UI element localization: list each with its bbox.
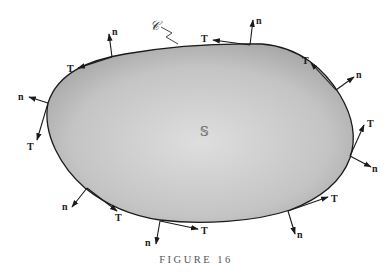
normal-vector	[250, 20, 253, 45]
vector-pair-6: n T	[350, 118, 378, 174]
region-s-label: 𝕊	[200, 125, 209, 139]
normal-vector	[29, 97, 48, 103]
svg-text:T: T	[27, 141, 34, 152]
svg-text:n: n	[18, 91, 24, 102]
vector-pair-8: n T	[201, 15, 262, 45]
svg-text:T: T	[201, 225, 208, 236]
tangent-vector	[37, 103, 48, 140]
normal-vector	[336, 77, 354, 90]
figure-caption: FIGURE 16	[0, 254, 392, 265]
svg-text:T: T	[367, 118, 374, 129]
vector-pair-4: n T	[145, 221, 208, 248]
svg-text:n: n	[256, 15, 262, 26]
svg-text:T: T	[331, 193, 338, 204]
svg-text:n: n	[297, 229, 303, 240]
svg-text:n: n	[356, 69, 362, 80]
svg-text:n: n	[62, 201, 68, 212]
svg-text:T: T	[201, 33, 208, 44]
svg-text:T: T	[302, 55, 309, 66]
svg-text:n: n	[112, 26, 118, 37]
region-diagram: 𝒞 𝕊 n T n T n T n T n T	[0, 0, 392, 275]
vector-pair-2: n T	[18, 91, 48, 152]
curve-pointer	[161, 27, 178, 44]
normal-vector	[288, 211, 295, 234]
svg-text:𝒞: 𝒞	[150, 18, 163, 33]
normal-vector	[350, 156, 371, 167]
svg-text:T: T	[115, 212, 122, 223]
svg-text:T: T	[67, 63, 74, 74]
svg-text:n: n	[145, 237, 151, 248]
svg-text:n: n	[372, 163, 378, 174]
normal-vector	[72, 188, 87, 207]
normal-vector	[109, 34, 112, 57]
normal-vector	[156, 221, 160, 244]
curve-c-label: 𝒞	[150, 18, 178, 44]
